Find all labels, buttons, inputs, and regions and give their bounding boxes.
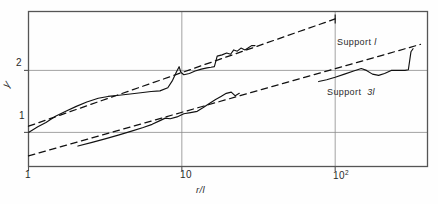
series-label-upper-text: Support (337, 37, 371, 47)
figure-container: γ 2 1 1 10 102 r/l Support l Support 3l (0, 0, 438, 204)
x-tick-label-10: 10 (180, 169, 192, 180)
series-layer (29, 14, 421, 156)
log-log-plot (0, 0, 438, 204)
series-label-support-l: Support l (337, 37, 377, 47)
series-label-support-3l: Support 3l (327, 87, 375, 97)
series-path (319, 49, 413, 82)
x-axis-label: r/l (196, 184, 205, 195)
series-label-lower-value: 3l (367, 87, 375, 97)
x-tick-label-1: 1 (25, 169, 31, 180)
x-tick-exponent: 2 (345, 169, 349, 176)
x-tick-label-100: 102 (333, 169, 349, 181)
tick-marks (24, 70, 335, 171)
x-tick-mantissa: 10 (333, 170, 345, 181)
y-tick-label-1: 1 (19, 110, 25, 121)
series-label-lower-text: Support (327, 87, 361, 97)
series-label-upper-value: l (374, 37, 376, 47)
series-path (29, 44, 421, 156)
y-tick-label-2: 2 (16, 57, 22, 68)
